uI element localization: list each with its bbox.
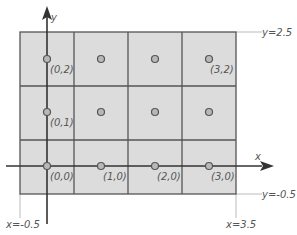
point-2-0 xyxy=(152,163,159,170)
bound-label-bottom: y=-0.5 xyxy=(261,189,296,200)
bound-label-top: y=2.5 xyxy=(261,27,292,38)
point-0-1 xyxy=(44,109,51,116)
point-0-0 xyxy=(44,163,51,170)
x-axis-arrow-icon xyxy=(260,161,274,171)
point-label-3-2: (3,2) xyxy=(210,64,234,75)
point-3-1 xyxy=(206,109,213,116)
point-1-0 xyxy=(98,163,105,170)
point-2-1 xyxy=(152,109,159,116)
point-1-1 xyxy=(98,109,105,116)
bound-label-right: x=3.5 xyxy=(225,219,256,230)
point-0-2 xyxy=(44,56,51,63)
point-1-2 xyxy=(98,56,105,63)
point-label-0-0: (0,0) xyxy=(50,171,74,182)
point-label-0-1: (0,1) xyxy=(50,117,74,128)
bound-label-left: x=-0.5 xyxy=(5,219,40,230)
pixel-grid-diagram: x y (0,2) (3,2) (0,1) (0,0) (1,0) (2,0) … xyxy=(0,0,297,235)
point-label-1-0: (1,0) xyxy=(103,171,127,182)
x-axis-label: x xyxy=(254,151,261,162)
point-2-2 xyxy=(152,56,159,63)
point-label-2-0: (2,0) xyxy=(157,171,181,182)
point-3-0 xyxy=(206,163,213,170)
y-axis-label: y xyxy=(50,12,58,23)
point-3-2 xyxy=(206,56,213,63)
point-label-0-2: (0,2) xyxy=(50,64,74,75)
point-label-3-0: (3,0) xyxy=(211,171,235,182)
